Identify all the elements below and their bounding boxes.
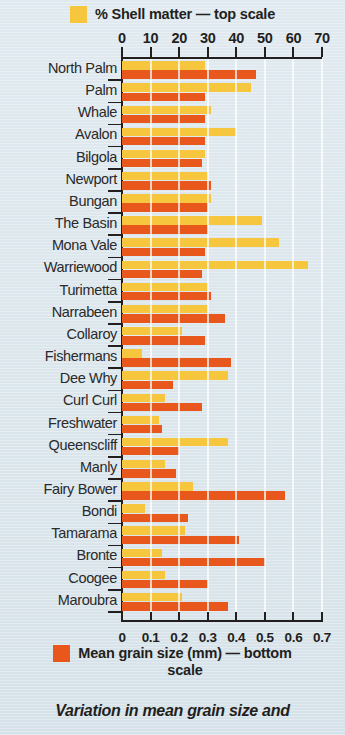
grain-size-bar xyxy=(122,536,239,544)
category-label: Dee Why xyxy=(0,370,117,386)
shell-matter-bar xyxy=(122,283,208,291)
grain-size-bar xyxy=(122,225,208,233)
category-label: Queenscliff xyxy=(0,437,117,453)
legend-bottom-label: Mean grain size (mm) — bottom scale xyxy=(78,645,293,679)
grain-size-bar xyxy=(122,381,173,389)
category-label: Tamarama xyxy=(0,525,117,541)
shell-matter-bar xyxy=(122,349,142,357)
bottom-axis-tick xyxy=(150,612,152,622)
bottom-axis-tick xyxy=(292,612,294,622)
grain-size-bar xyxy=(122,115,205,123)
bottom-axis-tick xyxy=(178,612,180,622)
grain-size-bar xyxy=(122,203,208,211)
grain-size-bar xyxy=(122,270,202,278)
category-label: Palm xyxy=(0,82,117,98)
bottom-tick-label: 0.4 xyxy=(227,630,245,645)
category-label: Bungan xyxy=(0,193,117,209)
gridline xyxy=(178,59,180,620)
shell-matter-bar xyxy=(122,106,211,114)
plot-area: 010203040506070 North PalmPalmWhaleAvalo… xyxy=(0,0,345,735)
top-tick-label: 70 xyxy=(314,30,330,46)
category-label: North Palm xyxy=(0,60,117,76)
top-axis-tick xyxy=(150,47,152,57)
category-label: Manly xyxy=(0,459,117,475)
gridline xyxy=(207,59,209,620)
top-tick-label: 50 xyxy=(257,30,273,46)
shell-matter-bar xyxy=(122,549,162,557)
top-axis-tick xyxy=(121,47,123,57)
shell-matter-bar xyxy=(122,394,165,402)
grain-size-bar xyxy=(122,358,231,366)
category-label: Whale xyxy=(0,104,117,120)
shell-matter-bar xyxy=(122,571,165,579)
category-label: Newport xyxy=(0,171,117,187)
top-tick-label: 20 xyxy=(171,30,187,46)
top-axis-tick xyxy=(178,47,180,57)
grain-size-bar xyxy=(122,292,211,300)
bottom-axis-tick xyxy=(321,612,323,622)
legend-bottom: Mean grain size (mm) — bottom scale xyxy=(0,645,345,679)
shell-matter-bar xyxy=(122,216,262,224)
shell-matter-bar xyxy=(122,238,279,246)
shell-matter-bar xyxy=(122,83,251,91)
shell-matter-bar xyxy=(122,416,159,424)
grain-size-bar xyxy=(122,403,202,411)
bottom-tick-label: 0.3 xyxy=(199,630,217,645)
top-axis-tick xyxy=(321,47,323,57)
top-axis-tick xyxy=(264,47,266,57)
category-label: Curl Curl xyxy=(0,392,117,408)
category-label: Turimetta xyxy=(0,282,117,298)
grain-size-bar xyxy=(122,248,205,256)
bottom-axis-tick xyxy=(207,612,209,622)
grain-size-bar xyxy=(122,159,202,167)
shell-matter-bar xyxy=(122,150,205,158)
gridline xyxy=(321,59,323,620)
grain-size-bar xyxy=(122,93,205,101)
category-label: Bilgola xyxy=(0,149,117,165)
category-label: Mona Vale xyxy=(0,237,117,253)
gridline xyxy=(292,59,294,620)
shell-matter-bar xyxy=(122,327,182,335)
bottom-axis-tick xyxy=(264,612,266,622)
category-label: Bronte xyxy=(0,547,117,563)
bottom-tick-label: 0.5 xyxy=(256,630,274,645)
grain-size-bar xyxy=(122,580,208,588)
category-axis-tick xyxy=(108,611,121,613)
shell-matter-bar xyxy=(122,194,211,202)
category-label: Freshwater xyxy=(0,415,117,431)
shell-matter-bar xyxy=(122,593,182,601)
shell-matter-bar xyxy=(122,482,193,490)
grain-size-bar xyxy=(122,425,162,433)
category-label: Coogee xyxy=(0,570,117,586)
top-tick-label: 10 xyxy=(143,30,159,46)
category-label: Avalon xyxy=(0,126,117,142)
gridline xyxy=(150,59,152,620)
grain-size-bar xyxy=(122,314,225,322)
gridline xyxy=(264,59,266,620)
shell-matter-bar xyxy=(122,460,165,468)
category-label: Warriewood xyxy=(0,259,117,275)
category-label: Fishermans xyxy=(0,348,117,364)
shell-matter-bar xyxy=(122,61,205,69)
category-label: Bondi xyxy=(0,503,117,519)
category-label: Collaroy xyxy=(0,326,117,342)
grain-size-bar xyxy=(122,181,211,189)
orange-swatch-icon xyxy=(53,645,70,662)
top-axis-tick xyxy=(292,47,294,57)
top-tick-label: 0 xyxy=(118,30,126,46)
top-tick-label: 60 xyxy=(286,30,302,46)
shell-matter-bar xyxy=(122,172,208,180)
chart-figure: % Shell matter — top scale 0102030405060… xyxy=(0,0,345,735)
top-tick-label: 40 xyxy=(229,30,245,46)
shell-matter-bar xyxy=(122,526,185,534)
top-axis-tick-labels: 010203040506070 xyxy=(0,30,345,48)
top-axis-tick xyxy=(207,47,209,57)
bottom-tick-label: 0.6 xyxy=(284,630,302,645)
shell-matter-bar xyxy=(122,438,228,446)
bottom-tick-label: 0 xyxy=(118,630,125,645)
grain-size-bar xyxy=(122,558,265,566)
category-label: Maroubra xyxy=(0,592,117,608)
shell-matter-bar xyxy=(122,305,208,313)
bottom-tick-label: 0.2 xyxy=(170,630,188,645)
grain-size-bar xyxy=(122,137,205,145)
